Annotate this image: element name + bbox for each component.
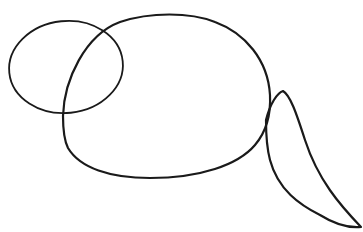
body-oval bbox=[63, 15, 270, 179]
drawing-canvas bbox=[0, 0, 363, 232]
head-circle bbox=[5, 15, 128, 118]
sketch-svg bbox=[0, 0, 363, 232]
tail bbox=[266, 91, 361, 227]
